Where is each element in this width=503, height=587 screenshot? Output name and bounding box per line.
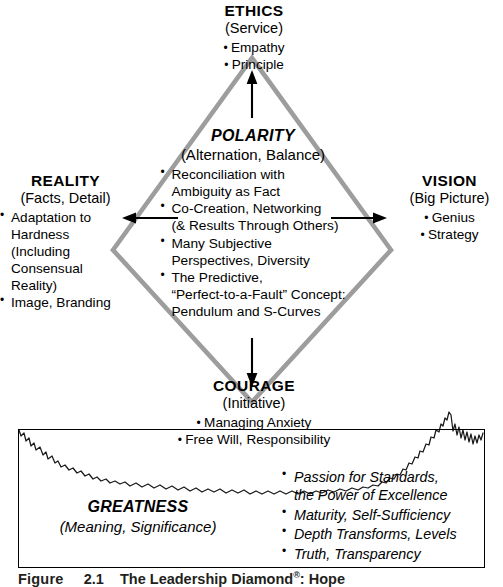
caption-number: 2.1 <box>84 571 104 587</box>
bullet-line: the Power of Excellence <box>294 487 447 503</box>
polarity-heading: POLARITY <box>126 127 380 146</box>
vision-bullets: Genius Strategy <box>396 209 503 243</box>
bullet-line: Consensual Reality) <box>11 261 83 293</box>
list-item: Managing Anxiety <box>178 414 331 431</box>
polarity-bullets: Reconciliation with Ambiguity as Fact Co… <box>160 166 345 321</box>
list-item: Adaptation to Hardness (Including Consen… <box>0 209 131 295</box>
node-ethics: ETHICS (Service) Empathy Principle <box>166 2 342 73</box>
bullet-line: Hardness (Including <box>11 227 70 259</box>
polarity-subtitle: (Alternation, Balance) <box>126 146 380 164</box>
courage-subtitle: (Initiative) <box>168 395 340 412</box>
courage-bullets: Managing Anxiety Free Will, Responsibili… <box>178 414 331 448</box>
bullet-line: (& Results Through Others) <box>171 218 338 233</box>
bullet-line: The Predictive, <box>171 270 262 285</box>
greatness-bullets: Passion for Standards, the Power of Exce… <box>282 468 497 565</box>
vision-subtitle: (Big Picture) <box>396 190 503 207</box>
greatness-heading: GREATNESS <box>18 498 258 516</box>
caption-prefix: Figure <box>18 571 64 587</box>
figure-caption: Figure 2.1 The Leadership Diamond®: Hope <box>18 570 488 587</box>
bullet-line: Perspectives, Diversity <box>171 253 309 268</box>
reality-subtitle: (Facts, Detail) <box>0 190 131 207</box>
bullet-line: Truth, Transparency <box>294 546 421 562</box>
list-item: Many Subjective Perspectives, Diversity <box>160 235 345 269</box>
bullet-line: Many Subjective <box>171 236 271 251</box>
node-reality: REALITY (Facts, Detail) Adaptation to Ha… <box>0 172 131 312</box>
list-item: Genius <box>396 209 503 226</box>
registered-mark: ® <box>293 570 300 580</box>
node-courage: COURAGE (Initiative) Managing Anxiety Fr… <box>168 377 340 449</box>
arrow-up-icon <box>247 70 258 118</box>
bullet-line: Passion for Standards, <box>294 469 439 485</box>
list-item: Principle <box>166 56 342 73</box>
list-item: Truth, Transparency <box>282 545 497 563</box>
ethics-subtitle: (Service) <box>166 20 342 37</box>
bullet-line: Reconciliation with <box>171 167 284 182</box>
reality-heading: REALITY <box>0 172 131 190</box>
list-item: Free Will, Responsibility <box>178 431 331 448</box>
ethics-bullets: Empathy Principle <box>166 39 342 73</box>
bullet-line: Depth Transforms, Levels <box>294 526 457 542</box>
list-item: Empathy <box>166 39 342 56</box>
bullet-line: Maturity, Self-Sufficiency <box>294 507 450 523</box>
ethics-heading: ETHICS <box>166 2 342 20</box>
caption-suffix: : Hope <box>300 571 345 587</box>
bullet-line: “Perfect-to-a-Fault” Concept: <box>171 287 345 302</box>
list-item: Reconciliation with Ambiguity as Fact <box>160 166 345 200</box>
bullet-line: Adaptation to <box>11 210 91 225</box>
bullet-line: Pendulum and S-Curves <box>171 304 320 319</box>
list-item: Depth Transforms, Levels <box>282 525 497 543</box>
courage-heading: COURAGE <box>168 377 340 395</box>
bullet-line: Ambiguity as Fact <box>171 184 280 199</box>
caption-text: The Leadership Diamond <box>120 571 293 587</box>
reality-bullets: Adaptation to Hardness (Including Consen… <box>0 209 131 312</box>
node-greatness: GREATNESS (Meaning, Significance) <box>18 498 258 535</box>
vision-heading: VISION <box>396 172 503 190</box>
list-item: Maturity, Self-Sufficiency <box>282 506 497 524</box>
greatness-subtitle: (Meaning, Significance) <box>18 518 258 535</box>
node-vision: VISION (Big Picture) Genius Strategy <box>396 172 503 243</box>
bullet-line: Co-Creation, Networking <box>171 201 321 216</box>
list-item: Passion for Standards, the Power of Exce… <box>282 468 497 504</box>
list-item: Strategy <box>396 226 503 243</box>
list-item: Co-Creation, Networking (& Results Throu… <box>160 200 345 234</box>
list-item: Image, Branding <box>0 294 131 311</box>
bullet-line: Image, Branding <box>11 295 111 310</box>
list-item: The Predictive, “Perfect-to-a-Fault” Con… <box>160 269 345 321</box>
node-polarity: POLARITY (Alternation, Balance) Reconcil… <box>126 127 380 321</box>
